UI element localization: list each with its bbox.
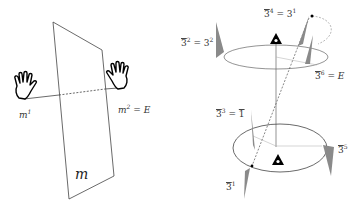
reflection-line-front xyxy=(24,95,59,99)
guide-line xyxy=(253,136,276,146)
label-3bar-2: 32 = 32 xyxy=(181,36,214,48)
label-3bar-6: 36 = E xyxy=(315,69,345,81)
wedge-op1 xyxy=(244,168,250,199)
label-3bar-3: 33 = 1 xyxy=(216,107,245,119)
diagram-canvas: m1 m2 = E m xyxy=(0,0,362,207)
wedge-op3 xyxy=(251,110,255,150)
left-hand-icon xyxy=(15,72,37,100)
label-3bar-1: 31 xyxy=(226,180,236,192)
wedge-op5 xyxy=(323,145,334,176)
inversion-point xyxy=(251,165,254,168)
rotoinversion-diagram: 32 = 32 34 = 31 36 = E 33 = 1 35 31 xyxy=(181,7,348,199)
wedge-op6 xyxy=(305,35,313,64)
triad-marker-bottom xyxy=(272,154,284,165)
guide-line xyxy=(276,57,317,65)
reflection-line-behind xyxy=(59,89,105,95)
arc-endpoint xyxy=(311,15,314,18)
label-mirror-m: m xyxy=(75,166,88,182)
triad-marker-top xyxy=(270,33,282,44)
label-3bar-5: 35 xyxy=(338,143,348,155)
label-m2-equals-e: m2 = E xyxy=(118,103,151,115)
mirror-diagram: m1 m2 = E m xyxy=(15,22,151,199)
right-hand-icon xyxy=(107,62,129,90)
wedge-op2 xyxy=(216,22,224,58)
rotation-arrow-arc xyxy=(312,16,331,44)
label-3bar-4: 34 = 31 xyxy=(264,7,296,19)
label-m1: m1 xyxy=(19,108,31,120)
